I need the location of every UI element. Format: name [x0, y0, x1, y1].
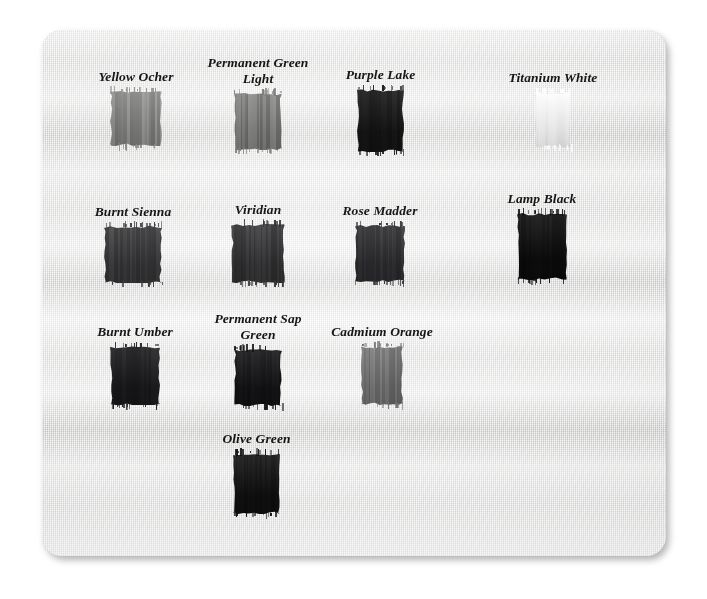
swatch-entry: Permanent Green Light [234, 92, 282, 150]
canvas-board: Yellow OcherPermanent Green LightPurple … [42, 30, 666, 556]
paint-block [231, 223, 285, 283]
paint-swatch [355, 224, 405, 282]
swatch-entry: Permanent Sap Green [234, 348, 282, 406]
paint-swatch [535, 91, 571, 147]
paint-swatch [110, 345, 160, 405]
swatch-label: Titanium White [509, 70, 598, 86]
swatch-label: Burnt Umber [97, 324, 173, 340]
paint-swatch [234, 92, 282, 150]
swatch-label: Lamp Black [508, 191, 577, 207]
paint-swatch [231, 223, 285, 283]
swatch-label: Viridian [235, 202, 282, 218]
paint-swatch [110, 90, 162, 146]
swatch-entry: Yellow Ocher [110, 90, 162, 146]
swatch-label: Olive Green [222, 431, 290, 447]
paint-swatch [233, 452, 280, 514]
swatch-label: Rose Madder [343, 203, 418, 219]
paint-block [535, 91, 571, 147]
swatch-entry: Burnt Sienna [104, 225, 162, 283]
paint-swatch [517, 212, 567, 280]
swatch-entry: Cadmium Orange [361, 345, 403, 405]
paint-block [104, 225, 162, 283]
swatch-entry: Purple Lake [357, 88, 404, 152]
paint-block [110, 345, 160, 405]
swatch-entry: Titanium White [535, 91, 571, 147]
paint-swatch [357, 88, 404, 152]
swatch-label: Permanent Green Light [208, 55, 309, 86]
paint-swatch [361, 345, 403, 405]
swatch-label: Yellow Ocher [98, 69, 173, 85]
paint-block [234, 348, 282, 406]
swatch-entry: Rose Madder [355, 224, 405, 282]
swatch-entry: Viridian [231, 223, 285, 283]
swatch-label: Burnt Sienna [95, 204, 172, 220]
paint-block [233, 452, 280, 514]
swatch-label: Permanent Sap Green [214, 311, 301, 342]
swatch-label: Cadmium Orange [331, 324, 433, 340]
swatch-label: Purple Lake [346, 67, 416, 83]
paint-swatch [104, 225, 162, 283]
paint-block [234, 92, 282, 150]
swatch-entry: Olive Green [233, 452, 280, 514]
paint-swatch [234, 348, 282, 406]
paint-block [517, 212, 567, 280]
swatch-entry: Burnt Umber [110, 345, 160, 405]
paint-block [357, 88, 404, 152]
paint-block [361, 345, 403, 405]
swatch-entry: Lamp Black [517, 212, 567, 280]
paint-block [110, 90, 162, 146]
paint-block [355, 224, 405, 282]
